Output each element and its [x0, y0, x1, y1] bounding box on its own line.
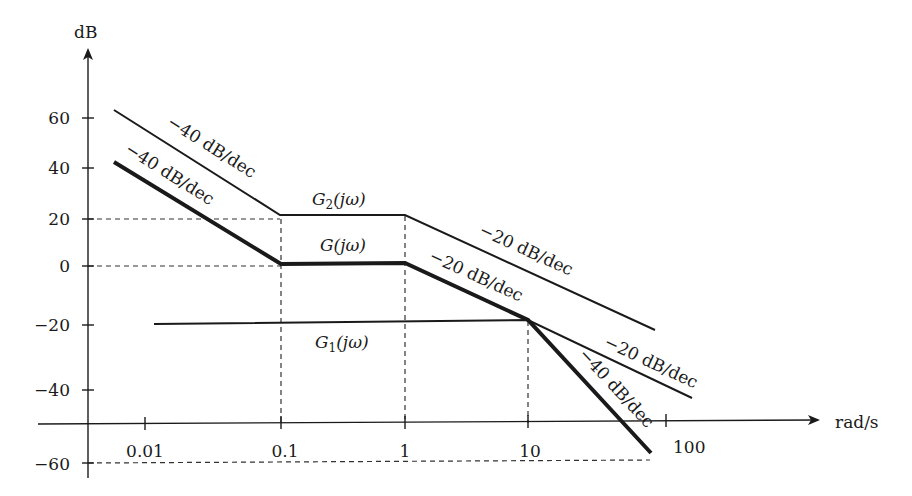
reference-lines	[88, 216, 650, 463]
x-tick-label: 10	[519, 441, 541, 461]
y-tick-label: 20	[48, 209, 70, 229]
ref-h-minus60	[88, 460, 650, 463]
x-axis	[38, 420, 818, 424]
x-tick-label: 0.1	[271, 441, 298, 461]
y-tick-label: 60	[48, 108, 70, 128]
x-tick-labels: 0.01 0.1 1 10 100	[126, 437, 705, 461]
x-tick-label: 0.01	[126, 441, 164, 461]
y-tick-labels: 60 40 20 0 −20 −40 −60	[34, 108, 70, 474]
x-tick-label: 1	[400, 441, 411, 461]
bode-diagram: dB rad/s 60 40 20 0 −20 −40 −60 0.01 0.1…	[0, 0, 912, 496]
curve-g	[114, 162, 651, 453]
y-tick-label: −20	[34, 315, 70, 335]
y-tick-label: 0	[59, 256, 70, 276]
y-tick-label: −60	[34, 454, 70, 474]
label-g: G(jω)	[320, 235, 366, 255]
y-axis-label: dB	[74, 22, 97, 42]
y-tick-label: −40	[34, 380, 70, 400]
label-g1: G1(jω)	[315, 332, 369, 355]
x-axis-label: rad/s	[835, 412, 879, 432]
y-tick-label: 40	[48, 158, 70, 178]
x-tick-label: 100	[673, 437, 705, 457]
label-g2: G2(jω)	[312, 189, 366, 212]
x-ticks	[145, 414, 666, 430]
